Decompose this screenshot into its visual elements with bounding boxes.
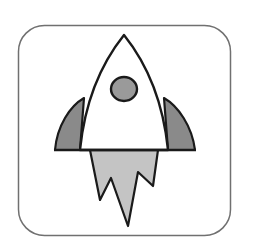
rocket-app-icon[interactable] xyxy=(0,0,254,251)
window-icon xyxy=(111,77,137,101)
